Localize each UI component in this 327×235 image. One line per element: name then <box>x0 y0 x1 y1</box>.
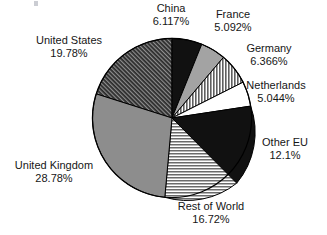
slice-label-united-kingdom-value: 28.78% <box>4 172 104 185</box>
slice-label-netherlands-name: Netherlands <box>232 79 320 92</box>
slice-label-other-eu: Other EU 12.1% <box>252 136 318 161</box>
slice-label-germany: Germany 6.366% <box>236 42 302 67</box>
slice-label-united-kingdom: United Kingdom 28.78% <box>4 159 104 184</box>
slice-label-netherlands: Netherlands 5.044% <box>232 79 320 104</box>
slice-label-netherlands-value: 5.044% <box>232 92 320 105</box>
slice-label-united-states: United States 19.78% <box>24 34 114 59</box>
slice-label-rest-of-world-name: Rest of World <box>168 200 254 213</box>
slice-label-rest-of-world-value: 16.72% <box>168 213 254 226</box>
slice-label-france-name: France <box>204 8 262 21</box>
slice-label-rest-of-world: Rest of World 16.72% <box>168 200 254 225</box>
slice-label-united-states-name: United States <box>24 34 114 47</box>
slice-label-france-value: 5.092% <box>204 21 262 34</box>
slice-label-germany-value: 6.366% <box>236 55 302 68</box>
pie-chart: China 6.117% France 5.092% Germany 6.366… <box>0 0 327 235</box>
slice-label-other-eu-name: Other EU <box>252 136 318 149</box>
slice-label-china: China 6.117% <box>140 2 202 27</box>
slice-label-germany-name: Germany <box>236 42 302 55</box>
slice-label-china-value: 6.117% <box>140 15 202 28</box>
slice-label-united-states-value: 19.78% <box>24 47 114 60</box>
slice-label-other-eu-value: 12.1% <box>252 149 318 162</box>
slice-label-france: France 5.092% <box>204 8 262 33</box>
slice-label-united-kingdom-name: United Kingdom <box>4 159 104 172</box>
slice-label-china-name: China <box>140 2 202 15</box>
